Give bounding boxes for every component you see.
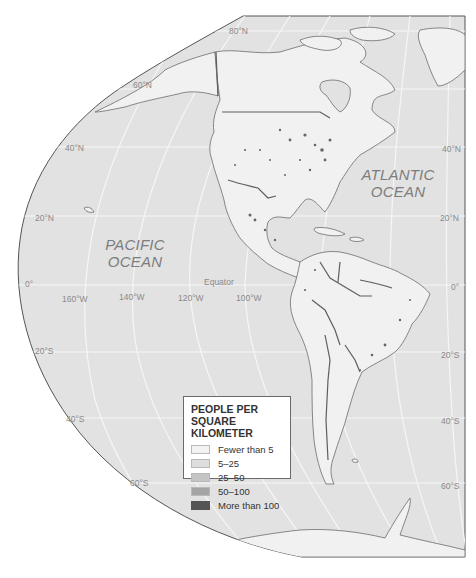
label-20s-right: 20°S	[441, 350, 460, 360]
legend-item: 50–100	[191, 484, 283, 498]
pacific-line2: OCEAN	[100, 253, 170, 270]
atlantic-ocean-label: ATLANTIC OCEAN	[358, 166, 438, 200]
label-20n-left: 20°N	[35, 213, 54, 223]
label-0-left: 0°	[25, 279, 33, 289]
legend-item: 5–25	[191, 456, 283, 470]
legend-swatch	[191, 473, 210, 482]
label-40n-left: 40°N	[65, 143, 84, 153]
legend-title-line1: PEOPLE PER	[191, 403, 283, 415]
label-100w: 100°W	[236, 293, 262, 303]
legend-label: 5–25	[218, 458, 239, 469]
legend: PEOPLE PER SQUARE KILOMETER Fewer than 5…	[183, 396, 291, 479]
label-40s-right: 40°S	[441, 416, 460, 426]
label-80n: 80°N	[229, 26, 248, 36]
label-20n-right: 20°N	[440, 213, 459, 223]
label-60s-right: 60°S	[441, 481, 460, 491]
legend-item: Fewer than 5	[191, 442, 283, 456]
pacific-ocean-label: PACIFIC OCEAN	[100, 236, 170, 270]
atlantic-line2: OCEAN	[358, 183, 438, 200]
label-140w: 140°W	[119, 292, 145, 302]
legend-swatch	[191, 459, 210, 468]
label-20s-left: 20°S	[35, 346, 54, 356]
label-60n: 60°N	[133, 80, 152, 90]
legend-swatch	[191, 487, 210, 496]
label-60s-left: 60°S	[130, 478, 149, 488]
legend-item: 25–50	[191, 470, 283, 484]
legend-item: More than 100	[191, 498, 283, 512]
label-0-right: 0°	[451, 282, 459, 292]
legend-label: 50–100	[218, 486, 250, 497]
label-40s-left: 40°S	[66, 414, 85, 424]
label-40n-right: 40°N	[442, 144, 461, 154]
legend-swatch	[191, 445, 210, 454]
pacific-line1: PACIFIC	[100, 236, 170, 253]
legend-label: 25–50	[218, 472, 244, 483]
legend-title: PEOPLE PER SQUARE KILOMETER	[191, 403, 283, 439]
label-160w: 160°W	[62, 294, 88, 304]
label-120w: 120°W	[178, 293, 204, 303]
legend-label: Fewer than 5	[218, 444, 273, 455]
atlantic-line1: ATLANTIC	[358, 166, 438, 183]
legend-swatch	[191, 501, 210, 510]
label-equator: Equator	[204, 277, 234, 287]
legend-title-line2: SQUARE KILOMETER	[191, 415, 283, 439]
legend-label: More than 100	[218, 500, 279, 511]
